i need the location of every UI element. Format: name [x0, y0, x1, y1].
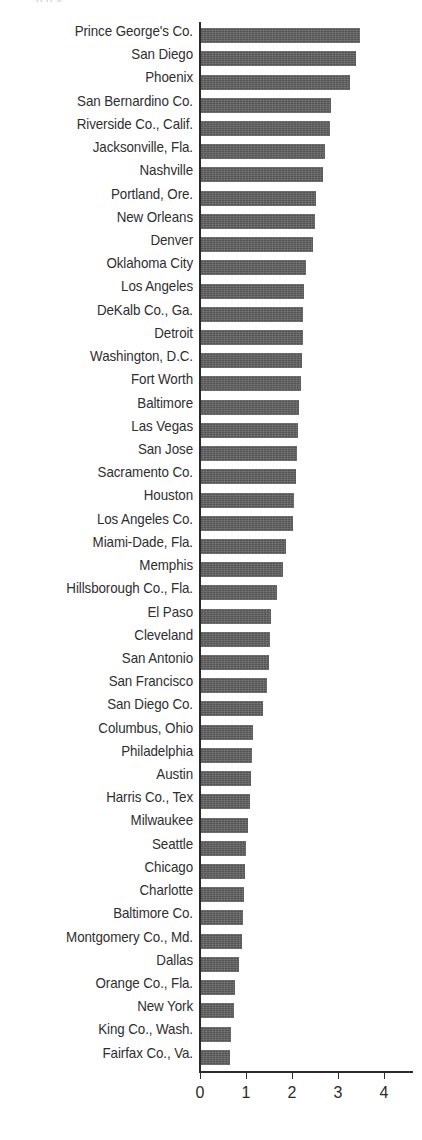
bar: [200, 516, 293, 531]
bar-row: San Francisco: [0, 674, 422, 697]
bar: [200, 214, 315, 229]
bar: [200, 910, 243, 925]
bar: [200, 260, 306, 275]
x-tick-mark: [292, 1071, 293, 1079]
bar: [200, 609, 271, 624]
bar: [200, 585, 277, 600]
bar-row: Portland, Ore.: [0, 187, 422, 210]
category-label: Nashville: [14, 163, 193, 178]
bar-row: San Bernardino Co.: [0, 94, 422, 117]
category-label: Columbus, Ohio: [14, 721, 193, 736]
category-label: Charlotte: [14, 883, 193, 898]
bar: [200, 493, 294, 508]
x-tick-label: 2: [281, 1084, 303, 1102]
bar: [200, 655, 269, 670]
category-label: Los Angeles Co.: [14, 512, 193, 527]
bar: [200, 771, 251, 786]
bar: [200, 237, 313, 252]
category-label: Las Vegas: [14, 419, 193, 434]
category-label: Riverside Co., Calif.: [14, 117, 193, 132]
bar: [200, 28, 360, 43]
category-label: Montgomery Co., Md.: [14, 930, 193, 945]
bar: [200, 957, 239, 972]
category-label: Prince George's Co.: [14, 24, 193, 39]
bar: [200, 167, 323, 182]
bar: [200, 539, 286, 554]
bar-row: Orange Co., Fla.: [0, 976, 422, 999]
bar-row: Seattle: [0, 837, 422, 860]
bar: [200, 51, 356, 66]
bar-row: DeKalb Co., Ga.: [0, 303, 422, 326]
x-axis-line: [199, 1071, 413, 1073]
bar-row: Dallas: [0, 953, 422, 976]
bar-row: San Diego: [0, 47, 422, 70]
bar: [200, 284, 304, 299]
category-label: Baltimore: [14, 396, 193, 411]
x-tick-label: 3: [327, 1084, 349, 1102]
x-tick-mark: [246, 1071, 247, 1079]
bar-row: Oklahoma City: [0, 256, 422, 279]
bar: [200, 400, 299, 415]
bar: [200, 330, 303, 345]
category-label: Orange Co., Fla.: [14, 976, 193, 991]
bar: [200, 1050, 230, 1065]
bar: [200, 864, 245, 879]
bar: [200, 794, 250, 809]
bar-row: Los Angeles: [0, 279, 422, 302]
category-label: Fort Worth: [14, 372, 193, 387]
bar-row: Washington, D.C.: [0, 349, 422, 372]
category-label: Milwaukee: [14, 813, 193, 828]
category-label: San Bernardino Co.: [14, 94, 193, 109]
bar-row: San Jose: [0, 442, 422, 465]
bar-row: Columbus, Ohio: [0, 721, 422, 744]
bar: [200, 748, 252, 763]
bar: [200, 701, 263, 716]
category-label: New Orleans: [14, 210, 193, 225]
category-label: Seattle: [14, 837, 193, 852]
bar: [200, 376, 301, 391]
bar-row: Denver: [0, 233, 422, 256]
category-label: Portland, Ore.: [14, 187, 193, 202]
category-label: Philadelphia: [14, 744, 193, 759]
category-label: San Diego Co.: [14, 697, 193, 712]
bar: [200, 469, 296, 484]
y-axis-spine: [199, 22, 201, 1071]
bar-row: Prince George's Co.: [0, 24, 422, 47]
bar: [200, 191, 316, 206]
bar: [200, 98, 331, 113]
x-tick-label: 0: [189, 1084, 211, 1102]
category-label: Dallas: [14, 953, 193, 968]
bar-row: New Orleans: [0, 210, 422, 233]
x-tick-mark: [338, 1071, 339, 1079]
category-label: Austin: [14, 767, 193, 782]
category-label: San Diego: [14, 47, 193, 62]
bar-row: Baltimore Co.: [0, 906, 422, 929]
bar: [200, 562, 283, 577]
category-label: Denver: [14, 233, 193, 248]
bar: [200, 934, 242, 949]
bar-row: New York: [0, 999, 422, 1022]
bar: [200, 887, 244, 902]
category-label: Jacksonville, Fla.: [14, 140, 193, 155]
bar-row: Fort Worth: [0, 372, 422, 395]
bar: [200, 980, 235, 995]
category-label: DeKalb Co., Ga.: [14, 303, 193, 318]
bar: [200, 841, 246, 856]
bar-row: Memphis: [0, 558, 422, 581]
bar-row: Detroit: [0, 326, 422, 349]
category-label: Memphis: [14, 558, 193, 573]
bar: [200, 121, 330, 136]
category-label: San Antonio: [14, 651, 193, 666]
category-label: Los Angeles: [14, 279, 193, 294]
category-label: Sacramento Co.: [14, 465, 193, 480]
bar: [200, 818, 248, 833]
bar: [200, 446, 297, 461]
category-label: Oklahoma City: [14, 256, 193, 271]
bar: [200, 75, 350, 90]
bar: [200, 307, 303, 322]
category-label: San Jose: [14, 442, 193, 457]
category-label: Harris Co., Tex: [14, 790, 193, 805]
bar-row: Cleveland: [0, 628, 422, 651]
bar-row: Charlotte: [0, 883, 422, 906]
x-tick-label: 4: [373, 1084, 395, 1102]
